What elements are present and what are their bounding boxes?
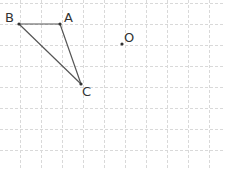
point-a xyxy=(58,22,61,25)
triangle-abc xyxy=(19,24,81,84)
point-b xyxy=(17,22,20,25)
point-label-o: O xyxy=(124,30,134,45)
points: ABCO xyxy=(5,10,134,99)
segment-ac xyxy=(60,24,81,84)
point-label-c: C xyxy=(82,84,91,99)
segment-bc xyxy=(19,24,81,84)
point-label-a: A xyxy=(64,10,73,25)
grid xyxy=(0,0,225,170)
geometry-canvas: ABCO xyxy=(0,0,225,170)
point-label-b: B xyxy=(5,10,14,25)
